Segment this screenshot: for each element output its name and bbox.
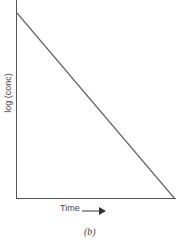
data-line (17, 13, 175, 199)
chart-plot (0, 0, 181, 241)
x-axis-label: Time (60, 203, 80, 213)
arrow-icon (99, 207, 106, 215)
y-axis-label: log (conc) (3, 63, 13, 123)
figure-caption: (b) (84, 226, 96, 237)
